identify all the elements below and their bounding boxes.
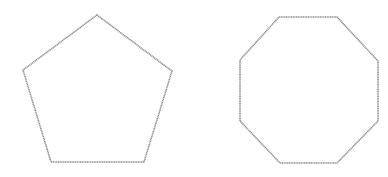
shapes-svg bbox=[0, 0, 388, 177]
pentagon-shape bbox=[23, 15, 172, 162]
octagon-shape bbox=[240, 17, 378, 163]
diagram-canvas bbox=[0, 0, 388, 177]
